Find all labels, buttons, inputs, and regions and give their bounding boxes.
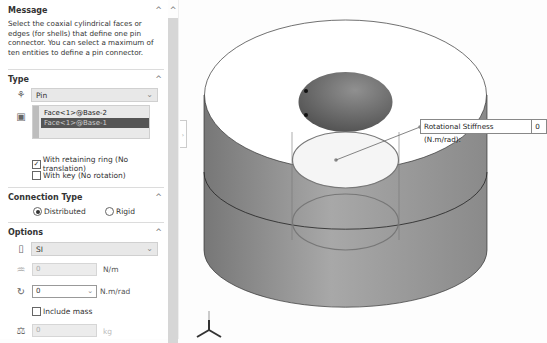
triad-icon[interactable] xyxy=(197,311,221,337)
rotational-stiffness-callout[interactable]: Rotational Stiffness (N.m/rad): 0 xyxy=(420,119,547,134)
callout-label: Rotational Stiffness (N.m/rad): xyxy=(421,120,532,133)
callout-value[interactable]: 0 xyxy=(532,120,546,133)
hole-face[interactable] xyxy=(299,72,393,132)
cylinder-model[interactable] xyxy=(204,20,487,307)
